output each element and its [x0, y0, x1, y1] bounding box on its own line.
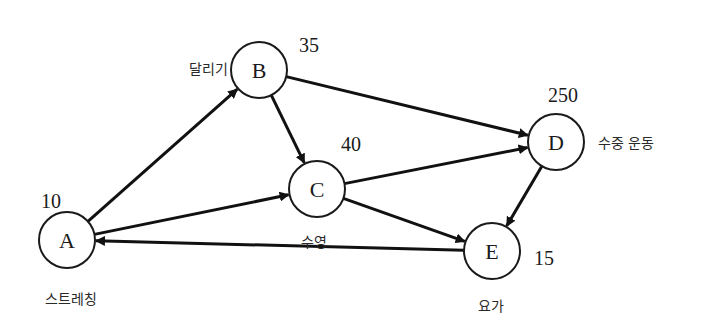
node-weight: 35	[299, 34, 319, 56]
node-weight: 15	[534, 247, 554, 269]
node-label: 달리기	[189, 61, 228, 77]
edge-c-to-e	[343, 198, 464, 241]
edge-e-to-a	[96, 241, 464, 251]
node-label: 스트레칭	[45, 291, 97, 307]
node-letter: A	[59, 228, 75, 253]
edge-a-to-b	[88, 89, 237, 221]
node-label: 수중 운동	[598, 135, 654, 151]
node-weight: 40	[341, 133, 361, 155]
node-d: D250수중 운동	[528, 84, 654, 170]
node-label: 요가	[478, 298, 504, 314]
edge-b-to-c	[271, 95, 304, 163]
node-a: A10스트레칭	[39, 190, 97, 307]
node-b: B35달리기	[189, 34, 319, 98]
node-e: E15요가	[464, 223, 554, 314]
edge-d-to-e	[507, 166, 542, 226]
edge-c-to-d	[344, 148, 527, 184]
nodes: A10스트레칭B35달리기C40수영D250수중 운동E15요가	[39, 34, 654, 314]
node-letter: C	[310, 177, 325, 202]
edge-a-to-c	[94, 195, 288, 235]
edge-b-to-d	[286, 77, 528, 136]
node-letter: E	[485, 239, 498, 264]
node-weight: 10	[41, 190, 61, 212]
node-letter: D	[548, 130, 564, 155]
graph-canvas: A10스트레칭B35달리기C40수영D250수중 운동E15요가	[0, 0, 702, 334]
node-weight: 250	[548, 84, 578, 106]
node-label: 수영	[301, 234, 327, 250]
node-letter: B	[252, 58, 267, 83]
